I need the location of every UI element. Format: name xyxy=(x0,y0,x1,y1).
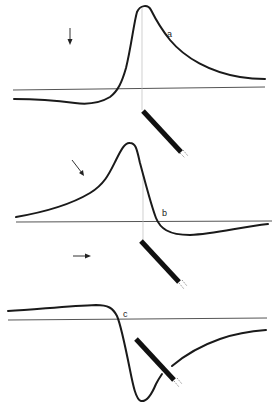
panel-b-electrode-icon xyxy=(141,241,187,289)
panel-c-waveform-recovery xyxy=(172,330,266,366)
panel-b-label: b xyxy=(162,208,167,218)
panel-b: b xyxy=(16,143,272,289)
panel-c-baseline xyxy=(8,318,267,320)
panel-c-label: c xyxy=(123,309,128,319)
panel-c-arrow-right-icon xyxy=(73,254,91,259)
panel-b-arrow-down-right-icon xyxy=(72,160,84,176)
panel-b-baseline xyxy=(16,221,272,222)
panel-c: c xyxy=(8,305,267,401)
panel-a-arrow-down-icon xyxy=(68,28,73,45)
panel-a-baseline xyxy=(13,87,265,90)
panel-a-label: a xyxy=(167,29,172,39)
panel-a: a xyxy=(13,6,265,158)
waveform-diagram: a b xyxy=(0,0,277,411)
panel-a-electrode-icon xyxy=(143,111,188,158)
